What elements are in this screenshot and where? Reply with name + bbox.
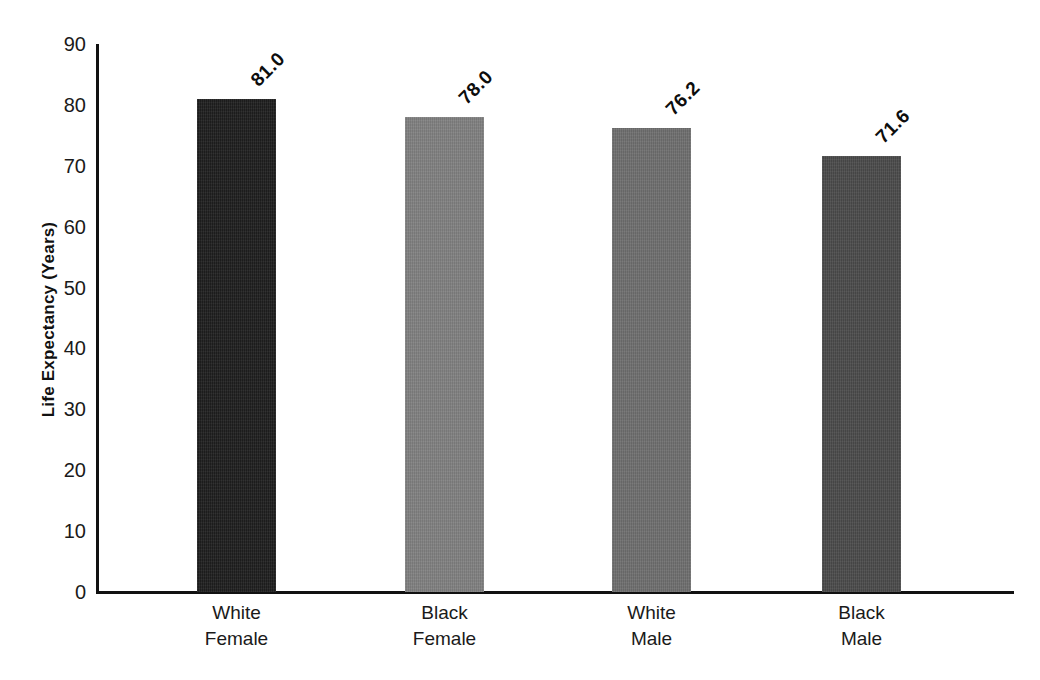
y-axis-tick-10: 10 [0, 521, 86, 541]
x-axis-label-line1: Black [792, 600, 932, 626]
bar-chart: Life Expectancy (Years) 9080706050403020… [0, 0, 1040, 680]
x-axis-label-black-female: BlackFemale [375, 600, 515, 651]
y-axis-tick-50: 50 [0, 278, 86, 298]
x-axis-label-white-female: WhiteFemale [167, 600, 307, 651]
y-axis-tick-60: 60 [0, 217, 86, 237]
bar-group: 81.0 [197, 44, 276, 592]
bar-white-male[interactable] [612, 128, 691, 592]
y-axis-tick-0: 0 [0, 582, 86, 602]
bar-group: 78.0 [405, 44, 484, 592]
x-axis-category-labels: WhiteFemaleBlackFemaleWhiteMaleBlackMale [99, 600, 1014, 670]
bar-black-male[interactable] [822, 156, 901, 592]
y-axis-tick-labels: 9080706050403020100 [0, 0, 86, 680]
plot-area: 81.078.076.271.6 [99, 44, 1014, 592]
bar-value-label: 71.6 [871, 105, 914, 148]
y-axis-tick-70: 70 [0, 156, 86, 176]
y-axis-tick-90: 90 [0, 34, 86, 54]
x-axis-label-line1: White [167, 600, 307, 626]
bar-value-label: 81.0 [246, 48, 289, 91]
bar-value-label: 78.0 [454, 66, 497, 109]
x-axis-label-line1: Black [375, 600, 515, 626]
bar-value-label: 76.2 [661, 77, 704, 120]
y-axis-tick-30: 30 [0, 399, 86, 419]
x-axis-label-line2: Female [375, 626, 515, 652]
x-axis-label-line1: White [582, 600, 722, 626]
bar-group: 76.2 [612, 44, 691, 592]
bar-white-female[interactable] [197, 99, 276, 592]
x-axis-label-line2: Female [167, 626, 307, 652]
x-axis-label-line2: Male [582, 626, 722, 652]
x-axis-label-white-male: WhiteMale [582, 600, 722, 651]
x-axis-label-black-male: BlackMale [792, 600, 932, 651]
y-axis-tick-40: 40 [0, 338, 86, 358]
x-axis-label-line2: Male [792, 626, 932, 652]
y-axis-tick-20: 20 [0, 460, 86, 480]
bar-group: 71.6 [822, 44, 901, 592]
bar-black-female[interactable] [405, 117, 484, 592]
y-axis-tick-80: 80 [0, 95, 86, 115]
